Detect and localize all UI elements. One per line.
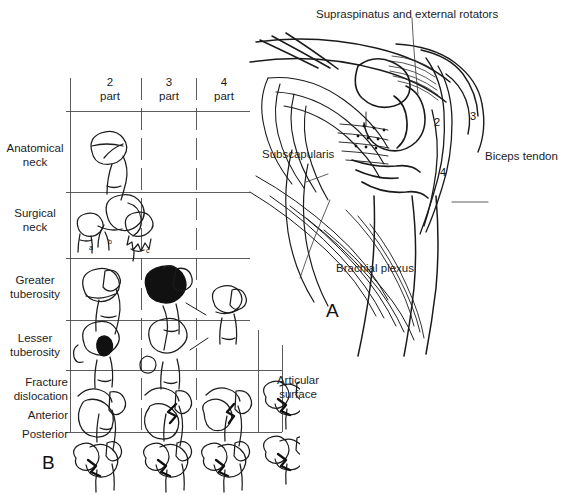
sketch-fx-dislocation-anterior-3part — [145, 388, 192, 446]
label-brachial-plexus: Brachial plexus — [336, 262, 414, 276]
sketch-fx-dislocation-anterior-4part — [203, 388, 252, 446]
sketch-anatomical-neck-2part — [91, 131, 127, 200]
sublabel-b: b — [108, 238, 112, 245]
sketch-surgical-neck-2part-b — [98, 195, 144, 250]
column-header-3-part: 3 part — [141, 76, 197, 104]
row-label-greater-tuberosity: Greater tuberosity — [2, 274, 68, 301]
column-header-4-part-word: part — [196, 90, 252, 104]
callout-fragment-2: 2 — [434, 116, 440, 128]
sketch-fx-dislocation-anterior-2part — [78, 389, 126, 450]
figure-root: 2 part 3 part 4 part Anatomical neck Sur… — [0, 0, 577, 495]
column-header-3-part-number: 3 — [141, 76, 197, 90]
sketch-greater-tuberosity-3part — [145, 266, 206, 350]
row-label-anterior: Anterior — [2, 409, 68, 423]
sublabel-c: c — [146, 247, 150, 254]
column-header-3-part-word: part — [141, 90, 197, 104]
sketch-fx-dislocation-posterior-4part — [202, 442, 250, 492]
row-label-lesser-tuberosity: Lesser tuberosity — [2, 332, 68, 359]
column-header-2-part-number: 2 — [82, 76, 138, 90]
column-header-2-part: 2 part — [82, 76, 138, 104]
panel-label-b: B — [42, 452, 55, 474]
row-label-anatomical-neck: Anatomical neck — [2, 142, 68, 169]
row-label-posterior: Posterior — [2, 428, 68, 442]
sketch-articular-surface-posterior — [264, 436, 300, 484]
shoulder-anatomy-drawing — [246, 0, 577, 400]
row-label-fracture-dislocation: Fracture dislocation — [2, 376, 68, 403]
anatomy-linework — [246, 0, 577, 400]
column-header-4-part-number: 4 — [196, 76, 252, 90]
sketch-displaced-tuberosity-fragment — [212, 286, 246, 344]
column-header-2-part-word: part — [82, 90, 138, 104]
label-subscapularis: Subscapularis — [262, 148, 334, 162]
label-biceps-tendon: Biceps tendon — [485, 150, 558, 164]
sketch-fx-dislocation-posterior-2part — [74, 442, 122, 492]
callout-fragment-4: 4 — [440, 166, 446, 178]
panel-label-a: A — [326, 300, 339, 322]
row-label-surgical-neck: Surgical neck — [2, 207, 68, 234]
callout-fragment-3: 3 — [470, 110, 476, 122]
sublabel-a: a — [89, 244, 93, 251]
sketch-lesser-tuberosity-3part — [140, 318, 208, 389]
sketch-fx-dislocation-posterior-3part — [144, 442, 192, 492]
label-supraspinatus-and-external-rotators: Supraspinatus and external rotators — [316, 8, 498, 22]
column-header-4-part: 4 part — [196, 76, 252, 104]
sketch-greater-tuberosity-2part — [83, 268, 121, 334]
